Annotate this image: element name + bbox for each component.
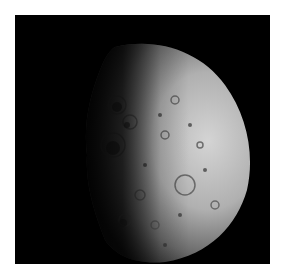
- asteroid-photo: [15, 15, 270, 264]
- asteroid-body: [75, 35, 265, 264]
- asteroid-illustration: [15, 15, 270, 264]
